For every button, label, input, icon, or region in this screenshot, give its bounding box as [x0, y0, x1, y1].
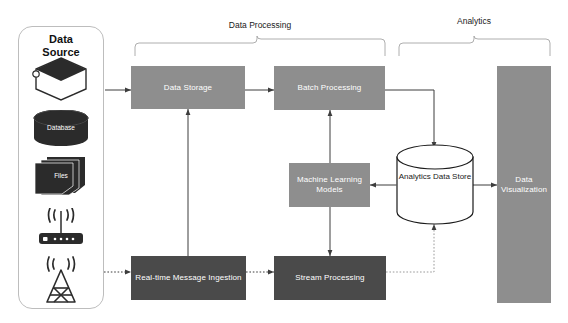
node-analytics-data-store-label: Analytics Data Store — [397, 172, 473, 182]
analytics-data-store-shape[interactable] — [0, 0, 568, 323]
architecture-diagram: Data Processing Analytics — [0, 0, 568, 323]
